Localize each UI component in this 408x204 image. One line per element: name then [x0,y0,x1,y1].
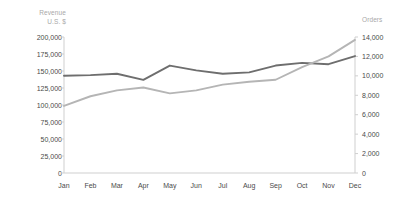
series-line-revenue [64,56,355,80]
dual-axis-line-chart: Revenue U.S. $ Orders 200,000175,000150,… [0,0,408,204]
plot-area [0,0,408,204]
